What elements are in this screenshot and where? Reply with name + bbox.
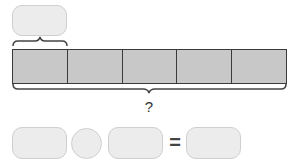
bar-segment	[123, 50, 178, 83]
equals-sign: =	[168, 132, 182, 152]
total-unknown-label: ?	[142, 98, 156, 115]
operator-circle[interactable]	[71, 128, 102, 159]
bar-segment	[232, 50, 286, 83]
bottom-brace-icon	[13, 84, 286, 93]
operand2-box[interactable]	[108, 127, 163, 159]
operand1-box[interactable]	[12, 127, 67, 159]
top-brace-icon	[13, 37, 67, 46]
bar-segment	[68, 50, 123, 83]
bar-segment	[13, 50, 68, 83]
result-box[interactable]	[186, 127, 241, 159]
bar-segment	[177, 50, 232, 83]
tape-bar	[12, 49, 287, 84]
